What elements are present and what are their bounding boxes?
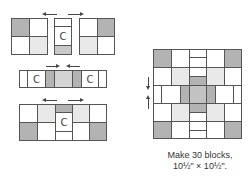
strip-bottom — [55, 131, 73, 141]
block-square — [224, 49, 242, 68]
patch-square — [29, 18, 48, 37]
caption-line-1: Make 30 blocks, — [150, 150, 250, 161]
block-square — [171, 67, 190, 86]
patch-square — [72, 122, 90, 141]
block-strip — [189, 130, 207, 139]
c-unit: C — [81, 70, 99, 88]
block-square — [224, 103, 242, 122]
c-unit: C — [27, 70, 46, 88]
patch-square — [97, 36, 115, 55]
block-square — [206, 67, 225, 86]
block-square — [171, 103, 190, 122]
block-square — [206, 49, 225, 68]
patch-square — [29, 36, 48, 55]
patch-square — [79, 36, 98, 55]
strip-segment — [98, 70, 107, 88]
strip-bottom — [54, 45, 72, 55]
arrow-down-icon — [148, 77, 149, 86]
block-square — [153, 67, 172, 86]
patch-square — [79, 18, 98, 37]
patch-square — [37, 104, 56, 123]
caption: Make 30 blocks, 10½" × 10½". — [150, 150, 250, 172]
block-square — [153, 49, 172, 68]
block-square — [171, 49, 190, 68]
patch-square — [19, 122, 38, 141]
patch-square — [11, 36, 30, 55]
arrowhead-up-icon — [146, 95, 150, 99]
block-square — [224, 67, 242, 86]
patch-square — [37, 122, 56, 141]
arrow-left-icon — [45, 100, 57, 101]
patch-square — [97, 18, 115, 37]
patch-square — [19, 104, 38, 123]
block-square — [206, 121, 225, 139]
block-square — [153, 103, 172, 122]
c-unit: C — [54, 26, 72, 46]
block-strip — [161, 85, 181, 104]
c-unit: C — [55, 112, 73, 132]
block-center — [189, 85, 207, 104]
patch-square — [89, 104, 107, 123]
patch-square — [89, 122, 107, 141]
patch-square — [11, 18, 30, 37]
arrowhead-left-icon — [42, 98, 46, 102]
arrow-left-icon — [70, 66, 80, 67]
arrowhead-left-icon — [66, 64, 70, 68]
block-square — [224, 121, 242, 139]
arrowhead-left-icon — [42, 12, 46, 16]
block-square — [206, 103, 225, 122]
arrow-up-icon — [148, 99, 149, 109]
arrow-right-icon — [68, 14, 80, 15]
strip-center — [54, 70, 73, 88]
arrow-right-icon — [68, 100, 80, 101]
arrowhead-right-icon — [56, 64, 60, 68]
arrow-left-icon — [45, 14, 57, 15]
block-square — [153, 121, 172, 139]
block-strip — [233, 85, 242, 104]
patch-square — [72, 104, 90, 123]
arrowhead-right-icon — [80, 98, 84, 102]
block-strip — [215, 85, 234, 104]
caption-line-2: 10½" × 10½". — [150, 161, 250, 172]
arrowhead-down-icon — [146, 86, 150, 90]
arrowhead-right-icon — [80, 12, 84, 16]
block-square — [171, 121, 190, 139]
arrow-right-icon — [46, 66, 56, 67]
